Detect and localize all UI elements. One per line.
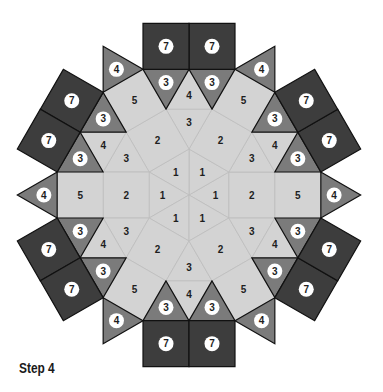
dark-triangle-label: 3 bbox=[267, 111, 282, 126]
dark-triangle-label: 3 bbox=[205, 75, 220, 90]
piece-number: 4 bbox=[272, 140, 278, 151]
dark-triangle-label: 3 bbox=[96, 264, 111, 279]
piece-number: 3 bbox=[295, 153, 301, 164]
dark-triangle-label: 3 bbox=[159, 75, 174, 90]
outer-light-triangle-label: 4 bbox=[186, 289, 192, 300]
piece-number: 3 bbox=[295, 226, 301, 237]
piece-number: 7 bbox=[209, 338, 215, 349]
tip-triangle-label: 4 bbox=[109, 313, 124, 328]
piece-number: 7 bbox=[303, 284, 309, 295]
piece-number: 3 bbox=[249, 226, 255, 237]
dark-triangle-label: 3 bbox=[159, 300, 174, 315]
piece-number: 3 bbox=[272, 266, 278, 277]
corner-square-label: 7 bbox=[41, 133, 56, 148]
inner-triangle-label: 3 bbox=[186, 117, 192, 128]
piece-number: 2 bbox=[218, 244, 224, 255]
piece-number: 4 bbox=[331, 190, 337, 201]
dark-triangle-label: 3 bbox=[267, 264, 282, 279]
piece-number: 7 bbox=[303, 95, 309, 106]
piece-number: 3 bbox=[100, 266, 106, 277]
piece-number: 4 bbox=[41, 190, 47, 201]
piece-number: 3 bbox=[123, 153, 129, 164]
outer-square-label: 5 bbox=[241, 284, 247, 295]
piece-number: 4 bbox=[114, 64, 120, 75]
inner-triangle-label: 3 bbox=[123, 153, 129, 164]
piece-number: 3 bbox=[100, 113, 106, 124]
inner-triangle-label: 3 bbox=[249, 153, 255, 164]
outer-square-label: 5 bbox=[295, 190, 301, 201]
inner-triangle-label: 3 bbox=[249, 226, 255, 237]
piece-number: 2 bbox=[218, 135, 224, 146]
piece-number: 3 bbox=[209, 302, 215, 313]
piece-number: 7 bbox=[46, 135, 52, 146]
piece-number: 1 bbox=[160, 190, 166, 201]
hex-triangle-label: 1 bbox=[199, 167, 205, 178]
outer-light-triangle-label: 4 bbox=[186, 90, 192, 101]
corner-square-label: 7 bbox=[299, 282, 314, 297]
piece-number: 3 bbox=[77, 153, 83, 164]
outer-light-triangle-label: 4 bbox=[272, 140, 278, 151]
piece-number: 5 bbox=[241, 95, 247, 106]
corner-square-label: 7 bbox=[322, 242, 337, 257]
tip-triangle-label: 4 bbox=[327, 188, 342, 203]
piece-number: 3 bbox=[163, 302, 169, 313]
inner-square-label: 2 bbox=[155, 244, 161, 255]
piece-number: 2 bbox=[249, 190, 255, 201]
piece-number: 3 bbox=[209, 77, 215, 88]
piece-number: 4 bbox=[259, 315, 265, 326]
dark-triangle-label: 3 bbox=[96, 111, 111, 126]
inner-triangle-label: 3 bbox=[186, 262, 192, 273]
piece-number: 5 bbox=[241, 284, 247, 295]
piece-number: 3 bbox=[163, 77, 169, 88]
piece-number: 5 bbox=[132, 284, 138, 295]
piece-number: 1 bbox=[173, 213, 179, 224]
dark-triangle-label: 3 bbox=[73, 151, 88, 166]
piece-number: 1 bbox=[213, 190, 219, 201]
hex-triangle-label: 1 bbox=[160, 190, 166, 201]
piece-number: 1 bbox=[199, 167, 205, 178]
piece-number: 3 bbox=[123, 226, 129, 237]
dark-triangle-label: 3 bbox=[290, 151, 305, 166]
piece-number: 5 bbox=[77, 190, 83, 201]
outer-square-label: 5 bbox=[132, 95, 138, 106]
hex-triangle-label: 1 bbox=[199, 213, 205, 224]
hex-triangle-label: 1 bbox=[213, 190, 219, 201]
corner-square-label: 7 bbox=[64, 93, 79, 108]
dark-triangle-label: 3 bbox=[205, 300, 220, 315]
outer-light-triangle-label: 4 bbox=[272, 239, 278, 250]
piece-number: 7 bbox=[69, 284, 75, 295]
piece-number: 4 bbox=[272, 239, 278, 250]
piece-number: 7 bbox=[326, 244, 332, 255]
piece-number: 4 bbox=[186, 289, 192, 300]
outer-light-triangle-label: 4 bbox=[100, 239, 106, 250]
piece-number: 2 bbox=[123, 190, 129, 201]
corner-square-label: 7 bbox=[159, 336, 174, 351]
piece-number: 7 bbox=[163, 338, 169, 349]
piece-number: 3 bbox=[77, 226, 83, 237]
dark-triangle-label: 3 bbox=[290, 224, 305, 239]
corner-square-label: 7 bbox=[64, 282, 79, 297]
tip-triangle-label: 4 bbox=[254, 62, 269, 77]
corner-square-label: 7 bbox=[205, 39, 220, 54]
tip-triangle-label: 4 bbox=[254, 313, 269, 328]
dark-triangle-label: 3 bbox=[73, 224, 88, 239]
piece-number: 5 bbox=[132, 95, 138, 106]
piece-number: 3 bbox=[186, 262, 192, 273]
piece-number: 3 bbox=[186, 117, 192, 128]
outer-square-label: 5 bbox=[241, 95, 247, 106]
piece-number: 3 bbox=[272, 113, 278, 124]
piece-number: 4 bbox=[259, 64, 265, 75]
piece-number: 7 bbox=[326, 135, 332, 146]
piece-number: 1 bbox=[173, 167, 179, 178]
piece-number: 5 bbox=[295, 190, 301, 201]
piece-number: 2 bbox=[155, 135, 161, 146]
piece-number: 2 bbox=[155, 244, 161, 255]
outer-light-triangle-label: 4 bbox=[100, 140, 106, 151]
corner-square-label: 7 bbox=[41, 242, 56, 257]
piece-number: 1 bbox=[199, 213, 205, 224]
inner-square-label: 2 bbox=[123, 190, 129, 201]
piece-number: 4 bbox=[100, 239, 106, 250]
outer-square-label: 5 bbox=[77, 190, 83, 201]
piece-number: 4 bbox=[186, 90, 192, 101]
inner-square-label: 2 bbox=[218, 244, 224, 255]
